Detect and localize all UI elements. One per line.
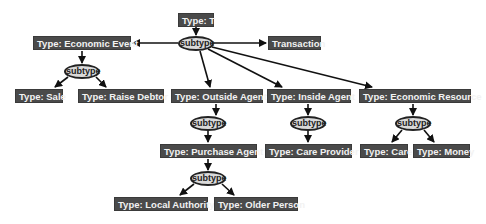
node-inside-agent: Type: Inside Agent — [267, 89, 351, 103]
node-care: Type: Care — [360, 144, 408, 158]
node-economic-resource: Type: Economic Resource — [359, 89, 471, 103]
node-type-t: Type: T — [178, 13, 214, 27]
diagram-edges — [0, 0, 486, 224]
node-purchase-agent: Type: Purchase Agent — [160, 144, 257, 158]
node-care-provider: Type: Care Provider — [265, 144, 352, 158]
node-older-person: Type: Older Person — [214, 197, 298, 211]
node-outside-agent: Type: Outside Agent — [171, 89, 263, 103]
node-transaction: Transaction — [268, 36, 321, 50]
node-money: Type: Money — [413, 144, 470, 158]
node-local-authority: Type: Local Authority — [114, 197, 208, 211]
node-sale: Type: Sale — [15, 89, 63, 103]
node-raise-debtor: Type: Raise Debtor — [78, 89, 164, 103]
subtype-ellipse-outside: subtype — [190, 116, 226, 131]
subtype-ellipse-purchase: subtype — [190, 171, 226, 186]
subtype-ellipse-resource: subtype — [395, 116, 431, 131]
subtype-ellipse-root: subtype — [178, 36, 214, 51]
subtype-ellipse-inside: subtype — [290, 116, 326, 131]
node-economic-event: Type: Economic Event — [33, 36, 131, 50]
subtype-ellipse-event: subtype — [64, 64, 100, 79]
